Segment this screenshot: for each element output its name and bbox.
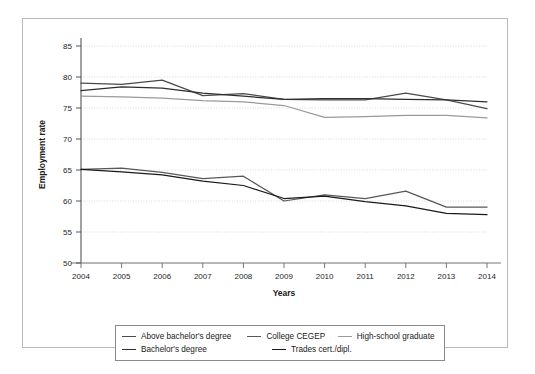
x-axis-title: Years xyxy=(273,288,296,298)
x-tick-label-2011: 2011 xyxy=(357,272,375,281)
x-tick-label-2010: 2010 xyxy=(316,272,334,281)
legend-item-trades-cert-dipl[interactable]: Trades cert./dipl. xyxy=(272,344,380,355)
legend-swatch-bachelor-s-degree xyxy=(122,349,136,350)
legend-row-2: Bachelor's degreeTrades cert./dipl. xyxy=(122,343,438,356)
legend-item-above-bachelor-s-degree[interactable]: Above bachelor's degree xyxy=(122,331,247,342)
legend-item-college-cegep[interactable]: College CEGEP xyxy=(247,331,337,342)
series-line-above-bachelor-s-degree xyxy=(81,80,487,109)
x-tick-label-2007: 2007 xyxy=(194,272,212,281)
legend-label-college-cegep: College CEGEP xyxy=(266,331,325,342)
y-axis-title: Employment rate xyxy=(37,120,47,189)
line-chart-svg: 8580757065605550200420052006200720082009… xyxy=(23,19,509,349)
x-tick-label-2008: 2008 xyxy=(235,272,253,281)
series-line-bachelor-s-degree xyxy=(81,87,487,102)
x-tick-label-2006: 2006 xyxy=(153,272,171,281)
x-tick-label-2014: 2014 xyxy=(478,272,496,281)
y-tick-label-60: 60 xyxy=(63,197,72,206)
y-tick-label-55: 55 xyxy=(63,228,72,237)
x-tick-label-2009: 2009 xyxy=(275,272,293,281)
chart-plot-area: 8580757065605550200420052006200720082009… xyxy=(23,19,509,349)
x-tick-label-2013: 2013 xyxy=(438,272,456,281)
legend-item-high-school-graduate[interactable]: High-school graduate xyxy=(338,331,438,342)
y-tick-label-85: 85 xyxy=(63,42,72,51)
chart-legend: Above bachelor's degreeCollege CEGEPHigh… xyxy=(115,325,445,361)
legend-label-trades-cert-dipl: Trades cert./dipl. xyxy=(291,344,352,355)
x-tick-label-2012: 2012 xyxy=(397,272,415,281)
legend-swatch-college-cegep xyxy=(247,336,261,337)
legend-row-1: Above bachelor's degreeCollege CEGEPHigh… xyxy=(122,330,438,343)
legend-swatch-trades-cert-dipl xyxy=(272,349,286,350)
legend-label-bachelor-s-degree: Bachelor's degree xyxy=(141,344,207,355)
series-line-trades-cert-dipl xyxy=(81,169,487,214)
legend-swatch-above-bachelor-s-degree xyxy=(122,336,136,337)
y-tick-label-65: 65 xyxy=(63,166,72,175)
y-tick-label-75: 75 xyxy=(63,104,72,113)
chart-figure-frame: 8580757065605550200420052006200720082009… xyxy=(22,18,508,348)
legend-label-above-bachelor-s-degree: Above bachelor's degree xyxy=(141,331,231,342)
x-tick-label-2004: 2004 xyxy=(72,272,90,281)
y-tick-label-50: 50 xyxy=(63,259,72,268)
y-tick-label-80: 80 xyxy=(63,73,72,82)
legend-swatch-high-school-graduate xyxy=(338,336,352,337)
legend-label-high-school-graduate: High-school graduate xyxy=(357,331,435,342)
legend-item-bachelor-s-degree[interactable]: Bachelor's degree xyxy=(122,344,272,355)
y-tick-label-70: 70 xyxy=(63,135,72,144)
x-tick-label-2005: 2005 xyxy=(113,272,131,281)
